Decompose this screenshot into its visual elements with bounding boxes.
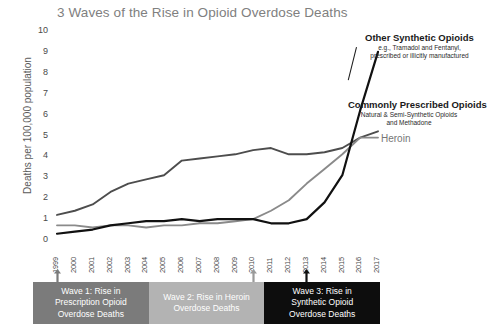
series-line-commonly-prescribed-opioids	[57, 131, 378, 215]
y-tick-0: 0	[26, 235, 48, 244]
y-tick-7: 7	[26, 89, 48, 98]
wave3-line-3: Overdose Deaths	[289, 309, 355, 319]
x-tick-2004: 2004	[140, 257, 149, 273]
wave-marker-arrow-2010	[250, 268, 257, 281]
wave2-line-2: Overdose Deaths	[173, 303, 239, 313]
x-tick-2008: 2008	[212, 257, 221, 273]
x-tick-2014: 2014	[319, 257, 328, 273]
plot-area	[57, 31, 378, 240]
y-tick-2: 2	[26, 193, 48, 202]
annotation-other-synthetic-opioids-title: Other Synthetic Opioids	[365, 32, 474, 43]
wave-band-3: Wave 3: Rise in Synthetic Opioid Overdos…	[264, 282, 380, 324]
annotation-heroin-title: Heroin	[381, 133, 410, 144]
annotation-synthetic-sub-line-2: prescribed or illicitly manufactured	[370, 52, 468, 59]
x-tick-2016: 2016	[354, 257, 363, 273]
x-tick-2000: 2000	[69, 257, 78, 273]
series-lines	[57, 31, 378, 240]
x-tick-2001: 2001	[87, 257, 96, 273]
wave-band-1: Wave 1: Rise in Prescription Opioid Over…	[33, 282, 149, 324]
page-title: 3 Waves of the Rise in Opioid Overdose D…	[57, 5, 348, 20]
y-tick-1: 1	[26, 214, 48, 223]
wave-bands: Wave 1: Rise in Prescription Opioid Over…	[33, 282, 380, 324]
x-tick-2006: 2006	[176, 257, 185, 273]
wave1-line-1: Wave 1: Rise in	[61, 286, 120, 296]
x-tick-2009: 2009	[230, 257, 239, 273]
wave3-line-1: Wave 3: Rise in	[293, 286, 352, 296]
y-axis-ticks: 109876543210	[22, 0, 48, 326]
annotation-prescribed-sub-line-2: and Methadone	[386, 119, 431, 126]
x-tick-2015: 2015	[337, 257, 346, 273]
wave2-line-1: Wave 2: Rise in Heroin	[163, 292, 250, 302]
wave-marker-arrow-1999	[54, 268, 61, 281]
x-axis-ticks: 1999200020012002200320042005200620072008…	[57, 243, 378, 273]
x-tick-2012: 2012	[283, 257, 292, 273]
x-tick-2005: 2005	[158, 257, 167, 273]
y-tick-9: 9	[26, 47, 48, 56]
y-tick-6: 6	[26, 110, 48, 119]
annotation-synthetic-sub-line-1: e.g., Tramadol and Fentanyl,	[378, 44, 461, 51]
series-line-other-synthetic-opioids	[57, 52, 378, 234]
wave1-line-2: Prescription Opioid	[55, 297, 127, 307]
wave3-line-2: Synthetic Opioid	[291, 297, 353, 307]
y-tick-4: 4	[26, 151, 48, 160]
annotation-other-synthetic-opioids-subtitle: e.g., Tramadol and Fentanyl, prescribed …	[362, 44, 477, 61]
wave-marker-arrow-2013	[303, 268, 310, 281]
y-tick-10: 10	[26, 26, 48, 35]
wave-band-2: Wave 2: Rise in Heroin Overdose Deaths	[149, 282, 265, 324]
x-tick-2017: 2017	[372, 257, 381, 273]
y-tick-5: 5	[26, 131, 48, 140]
wave1-line-3: Overdose Deaths	[58, 309, 124, 319]
y-tick-8: 8	[26, 68, 48, 77]
x-tick-2011: 2011	[265, 258, 274, 273]
x-tick-2007: 2007	[194, 257, 203, 273]
y-tick-3: 3	[26, 172, 48, 181]
x-tick-2003: 2003	[123, 257, 132, 273]
x-tick-2002: 2002	[105, 257, 114, 273]
